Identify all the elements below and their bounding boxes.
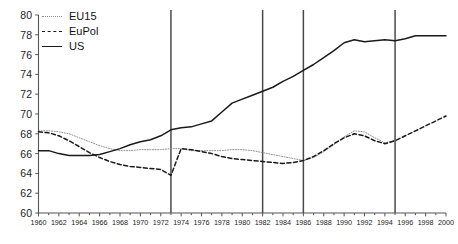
legend-item-eupol: EuPol xyxy=(41,23,98,38)
x-tick-label: 1968 xyxy=(110,218,130,227)
x-tick-label: 1974 xyxy=(171,218,191,227)
y-tick-label: 80 xyxy=(2,9,32,21)
x-tick-label: 1982 xyxy=(253,218,273,227)
x-tick-label: 1988 xyxy=(314,218,334,227)
series-group xyxy=(39,36,447,176)
x-tick-label: 1984 xyxy=(273,218,293,227)
x-tick-label: 2000 xyxy=(436,218,456,227)
x-tick-label: 1976 xyxy=(192,218,212,227)
legend-label-eu15: EU15 xyxy=(69,10,97,22)
x-tick-label: 1970 xyxy=(130,218,150,227)
line-chart: 6062646668707274767880 19601962196419661… xyxy=(0,0,458,244)
x-tick-label: 1978 xyxy=(212,218,232,227)
y-tick-label: 78 xyxy=(2,29,32,41)
chart-legend: EU15 EuPol US xyxy=(41,8,98,53)
x-tick-label: 1994 xyxy=(375,218,395,227)
y-tick-label: 60 xyxy=(2,207,32,219)
y-tick-label: 62 xyxy=(2,187,32,199)
x-tick-label: 1960 xyxy=(29,218,49,227)
y-tick-label: 64 xyxy=(2,167,32,179)
x-tick-label: 1990 xyxy=(334,218,354,227)
x-tick-label: 1986 xyxy=(293,218,313,227)
y-tick-label: 74 xyxy=(2,68,32,80)
x-tick-label: 1980 xyxy=(232,218,252,227)
x-tick-label: 1964 xyxy=(69,218,89,227)
y-tick-label: 70 xyxy=(2,108,32,120)
series-line-us xyxy=(39,36,447,156)
y-tick-label: 68 xyxy=(2,128,32,140)
legend-label-us: US xyxy=(69,40,84,52)
x-tick-label: 1962 xyxy=(49,218,69,227)
legend-item-us: US xyxy=(41,38,98,53)
x-tick-label: 1972 xyxy=(151,218,171,227)
legend-swatch-eu15 xyxy=(41,11,63,21)
legend-item-eu15: EU15 xyxy=(41,8,98,23)
y-tick-label: 76 xyxy=(2,49,32,61)
x-tick-label: 1966 xyxy=(90,218,110,227)
x-tick-label: 1992 xyxy=(355,218,375,227)
y-tick-label: 72 xyxy=(2,88,32,100)
x-tick-label: 1998 xyxy=(416,218,436,227)
legend-swatch-us xyxy=(41,41,63,51)
legend-label-eupol: EuPol xyxy=(69,25,98,37)
y-tick-label: 66 xyxy=(2,148,32,160)
x-tick-label: 1996 xyxy=(395,218,415,227)
legend-swatch-eupol xyxy=(41,26,63,36)
